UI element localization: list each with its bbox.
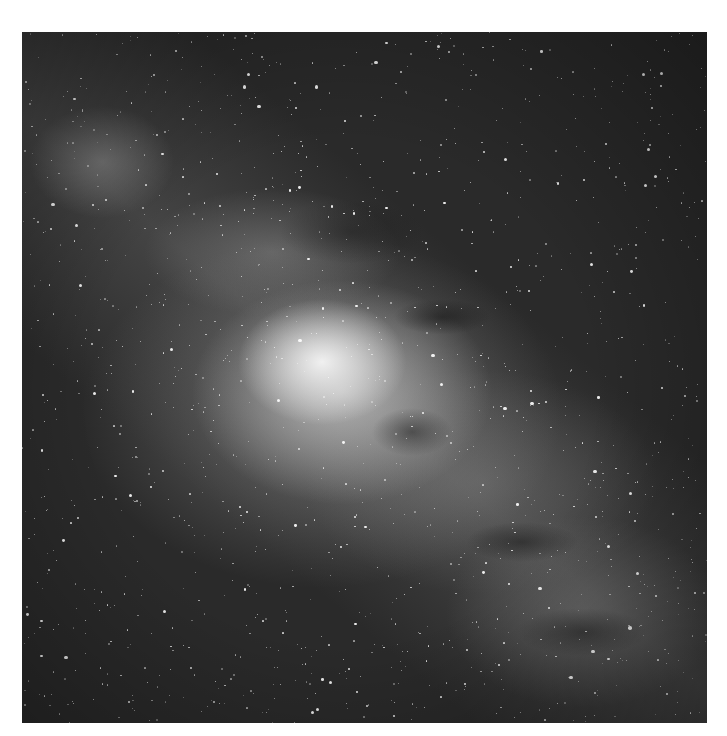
vignette <box>22 32 707 723</box>
milky-way-photo <box>22 32 707 723</box>
